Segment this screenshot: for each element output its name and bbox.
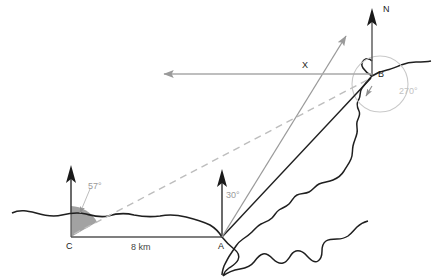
- angle-label-270: 270°: [399, 86, 418, 96]
- arc-arrow-icon-b: [366, 86, 372, 96]
- coastline-east: [222, 76, 372, 275]
- leader-line-57: [80, 189, 90, 213]
- angle-sector-c: [71, 206, 97, 237]
- segment-AB: [222, 78, 371, 237]
- angle-label-30: 30°: [226, 190, 240, 200]
- diagram-svg: [0, 0, 433, 278]
- coastline-south-bay: [222, 221, 368, 276]
- north-label-b: N: [383, 4, 390, 14]
- point-label-x: X: [302, 60, 308, 70]
- point-label-b: B: [378, 69, 384, 79]
- point-label-a: A: [218, 241, 224, 251]
- point-label-c: C: [66, 241, 73, 251]
- diagram-canvas: A B C X N 57° 30° 270° 8 km: [0, 0, 433, 278]
- distance-label-ca: 8 km: [131, 242, 151, 252]
- shoreline-west: [12, 211, 222, 237]
- angle-arc-b: [352, 56, 408, 112]
- angle-label-57: 57°: [88, 181, 102, 191]
